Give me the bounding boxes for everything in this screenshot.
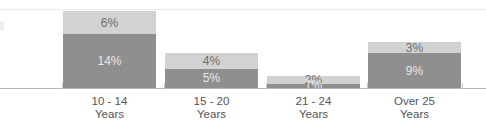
- bar-group-over-25-years[interactable]: 3% 9%: [368, 42, 461, 88]
- category-label-line1-1: 15 - 20: [194, 95, 230, 107]
- bar-value-label-upper-1: 4%: [203, 55, 220, 67]
- axis-tick-4: [462, 83, 463, 89]
- bar-value-label-lower-0: 14%: [97, 55, 121, 67]
- category-label-line2-0: Years: [63, 108, 156, 121]
- category-label-line1-3: Over 25: [394, 95, 435, 107]
- category-label-line2-3: Years: [368, 108, 461, 121]
- category-label-line1-0: 10 - 14: [92, 95, 128, 107]
- bar-value-label-upper-3: 3%: [406, 42, 423, 54]
- bar-segment-lower-1[interactable]: 5%: [165, 69, 258, 88]
- category-label-21-24-years: 21 - 24 Years: [267, 95, 360, 121]
- plot-area: 6% 14% 4% 5% 2% 1% 3: [0, 0, 486, 89]
- category-label-over-25-years: Over 25 Years: [368, 95, 461, 121]
- category-label-15-20-years: 15 - 20 Years: [165, 95, 258, 121]
- bar-segment-upper-1[interactable]: 4%: [165, 53, 258, 68]
- category-label-line2-2: Years: [267, 108, 360, 121]
- bar-segment-lower-3[interactable]: 9%: [368, 53, 461, 88]
- category-label-line2-1: Years: [165, 108, 258, 121]
- axis-tick-3: [367, 83, 368, 89]
- bar-value-label-lower-2: 1%: [305, 79, 322, 91]
- bar-value-label-lower-3: 9%: [406, 65, 423, 77]
- baseline-axis: [0, 88, 486, 89]
- category-label-10-14-years: 10 - 14 Years: [63, 95, 156, 121]
- bar-group-15-20-years[interactable]: 4% 5%: [165, 53, 258, 88]
- bar-segment-upper-3[interactable]: 3%: [368, 42, 461, 54]
- bar-group-10-14-years[interactable]: 6% 14%: [63, 11, 156, 88]
- axis-tick-2: [266, 83, 267, 89]
- axis-tick-1: [164, 83, 165, 89]
- bar-group-21-24-years[interactable]: 2% 1%: [267, 76, 360, 88]
- bar-value-label-upper-0: 6%: [101, 17, 118, 29]
- stacked-bar-chart: 6% 14% 4% 5% 2% 1% 3: [0, 0, 486, 140]
- bar-segment-lower-0[interactable]: 14%: [63, 34, 156, 88]
- bar-value-label-lower-1: 5%: [203, 72, 220, 84]
- category-label-line1-2: 21 - 24: [296, 95, 332, 107]
- axis-tick-0: [62, 83, 63, 89]
- bar-segment-upper-0[interactable]: 6%: [63, 11, 156, 34]
